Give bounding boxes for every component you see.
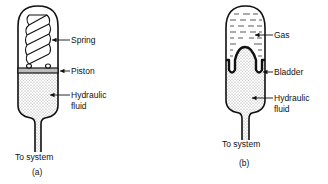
piston <box>18 68 58 73</box>
label-hydraulic-b-1: Hydraulic <box>274 94 309 103</box>
outlet-label-b: To system <box>222 139 260 149</box>
bladder-accumulator <box>226 6 273 140</box>
hydraulic-fluid-region-a <box>18 73 58 152</box>
outlet-label-a: To system <box>15 152 53 162</box>
label-hydraulic-a-1: Hydraulic <box>71 91 106 100</box>
spring <box>26 15 51 68</box>
hydraulic-fluid-region-b <box>226 47 265 140</box>
label-hydraulic-b-2: fluid <box>274 105 290 114</box>
label-bladder: Bladder <box>274 68 303 77</box>
label-spring: Spring <box>71 36 96 45</box>
label-hydraulic-a-2: fluid <box>71 102 87 111</box>
caption-a: (a) <box>32 167 42 177</box>
spring-accumulator <box>18 6 70 152</box>
label-piston: Piston <box>71 67 95 76</box>
label-gas: Gas <box>274 31 290 40</box>
caption-b: (b) <box>239 158 249 168</box>
